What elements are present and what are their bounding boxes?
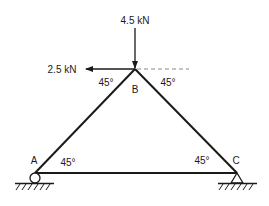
member-bc [135, 69, 237, 173]
angle-label-b-left: 45° [98, 77, 113, 88]
angle-label-a: 45° [60, 157, 75, 168]
node-label-b: B [132, 84, 139, 95]
angle-label-c: 45° [194, 155, 209, 166]
horizontal-load-label: 2.5 kN [48, 64, 77, 75]
node-label-a: A [31, 155, 38, 166]
vertical-load-label: 4.5 kN [121, 15, 150, 26]
pin-triangle-icon [231, 173, 243, 183]
angle-label-b-right: 45° [160, 77, 175, 88]
pin-support-c [218, 173, 257, 190]
roller-icon [30, 173, 40, 183]
ground-hatch-icon [16, 184, 50, 190]
member-ab [35, 69, 135, 173]
node-label-c: C [232, 155, 239, 166]
ground-hatch-icon [219, 184, 253, 190]
truss-diagram: 4.5 kN 2.5 kN B A C 45° 45° 45° 45° [0, 0, 269, 206]
roller-support-a [15, 173, 54, 190]
